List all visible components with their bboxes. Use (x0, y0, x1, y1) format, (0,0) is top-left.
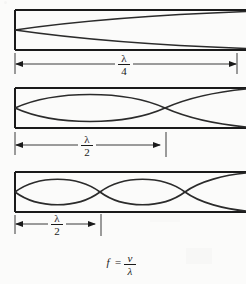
formula-equals: = (114, 256, 121, 268)
dimension-label-denominator-3: 2 (54, 225, 60, 237)
dimension-label-denominator-1: 4 (121, 65, 127, 77)
dimension-label-numerator-2: λ (84, 133, 90, 145)
formula-numerator: v (128, 252, 133, 264)
figure-canvas: λ 4 λ 2 (0, 0, 246, 284)
dimension-label-denominator-2: 2 (84, 146, 90, 158)
standing-wave-figure: λ 4 λ 2 (0, 0, 246, 284)
dimension-label-numerator-3: λ (54, 212, 60, 224)
dimension-label-numerator-1: λ (121, 52, 127, 64)
figure-background (0, 0, 246, 284)
formula-denominator: λ (127, 265, 133, 277)
